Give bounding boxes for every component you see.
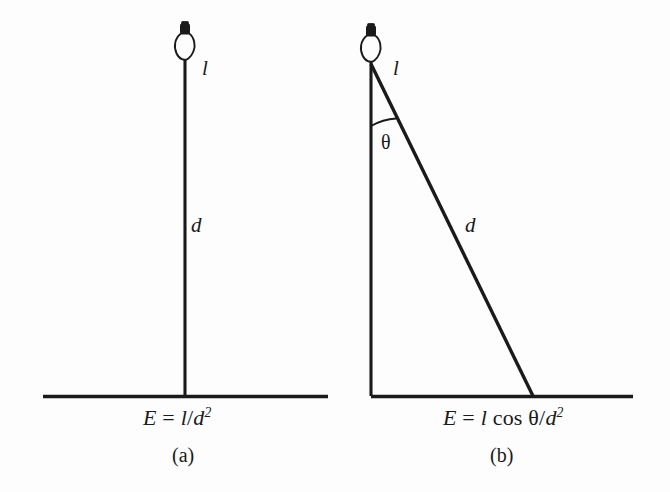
figure-root: l d E = l/d2 (a) l θ d E = l cos θ/d2 (b… — [0, 0, 670, 492]
formula-angle: θ — [528, 405, 539, 430]
panel-a-diagram — [43, 22, 328, 397]
panel-b-source-label: l — [393, 58, 399, 79]
light-bulb-icon — [361, 24, 381, 62]
formula-cos: cos — [493, 405, 523, 430]
panel-b-angle-label: θ — [381, 132, 391, 152]
formula-exponent: 2 — [557, 405, 564, 420]
panel-b-distance-label: d — [465, 215, 476, 236]
formula-lhs: E — [143, 405, 157, 430]
panel-b-caption: (b) — [490, 445, 513, 465]
diagram-canvas — [0, 0, 670, 492]
formula-exponent: 2 — [204, 405, 211, 420]
panel-b-diagram — [361, 24, 633, 397]
panel-a-distance-label: d — [191, 215, 202, 236]
formula-equals: = — [462, 405, 475, 430]
formula-denominator: d — [193, 405, 204, 430]
panel-a-source-label: l — [202, 58, 208, 79]
panel-b-formula: E = l cos θ/d2 — [443, 407, 564, 429]
angle-arc — [371, 119, 396, 127]
formula-denominator: d — [545, 405, 556, 430]
panel-a-formula: E = l/d2 — [143, 407, 212, 429]
light-bulb-icon — [175, 22, 195, 60]
formula-lhs: E — [443, 405, 457, 430]
panel-a-caption: (a) — [172, 445, 194, 465]
panel-b-distance-line — [371, 64, 533, 396]
formula-equals: = — [162, 405, 175, 430]
